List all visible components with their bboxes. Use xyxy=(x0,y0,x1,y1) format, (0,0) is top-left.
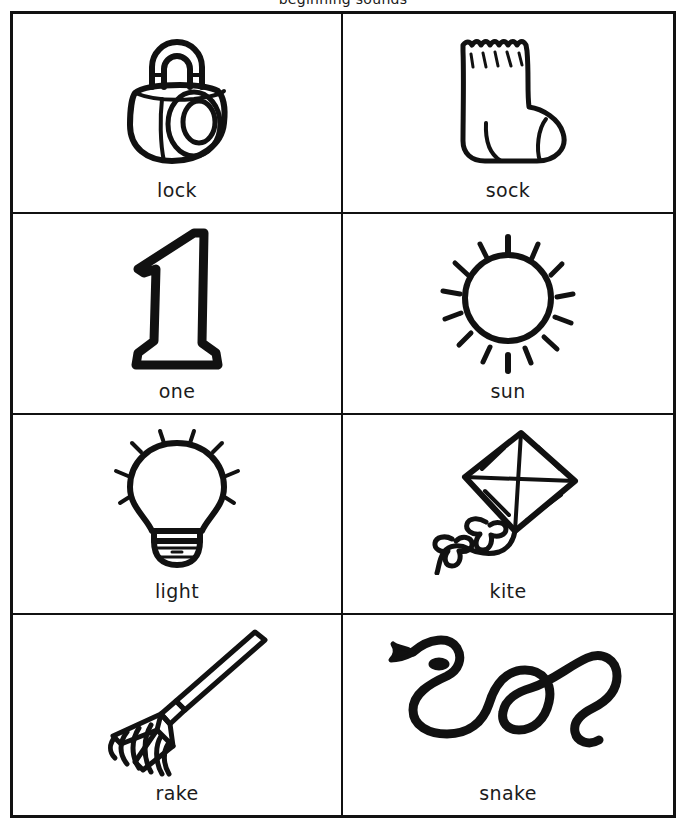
kite-icon xyxy=(343,415,673,582)
cell-label: kite xyxy=(489,582,526,613)
cell-label: lock xyxy=(157,181,197,212)
cell-rake[interactable]: rake xyxy=(13,615,343,815)
worksheet-page: beginning sounds lock xyxy=(0,0,686,827)
rake-icon xyxy=(13,615,341,784)
cell-label: sun xyxy=(490,382,525,413)
top-cropped-heading-text: beginning sounds xyxy=(0,0,686,7)
cell-label: rake xyxy=(155,784,198,815)
lightbulb-icon xyxy=(13,415,341,582)
cell-sock[interactable]: sock xyxy=(343,14,673,214)
cell-one[interactable]: one xyxy=(13,214,343,414)
cell-label: one xyxy=(159,382,196,413)
cell-label: light xyxy=(155,582,199,613)
padlock-icon xyxy=(13,14,341,181)
cell-label: sock xyxy=(486,181,531,212)
sock-icon xyxy=(343,14,673,181)
cell-light[interactable]: light xyxy=(13,415,343,615)
cell-kite[interactable]: kite xyxy=(343,415,673,615)
sun-icon xyxy=(343,214,673,381)
numeral-one-icon xyxy=(13,214,341,381)
cell-snake[interactable]: snake xyxy=(343,615,673,815)
cell-label: snake xyxy=(479,784,537,815)
top-cropped-heading: beginning sounds xyxy=(0,0,686,11)
snake-icon xyxy=(343,615,673,784)
cell-sun[interactable]: sun xyxy=(343,214,673,414)
cell-lock[interactable]: lock xyxy=(13,14,343,214)
picture-word-grid: lock sock one xyxy=(10,11,676,818)
